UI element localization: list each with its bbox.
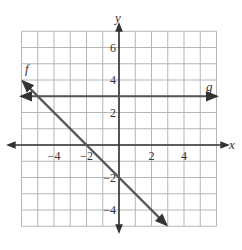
line-g-label: g	[206, 79, 213, 94]
y-tick-label: 2	[110, 106, 116, 120]
x-tick-label: 2	[149, 149, 155, 163]
y-axis-label: y	[113, 10, 121, 25]
y-tick-label: −4	[103, 203, 116, 217]
x-tick-label: 4	[181, 149, 187, 163]
x-tick-label: −4	[48, 149, 61, 163]
x-tick-label: −2	[80, 149, 93, 163]
axes	[8, 24, 228, 232]
line-f	[23, 82, 166, 225]
coordinate-plane: −4−224642−2−4 x y f g	[0, 0, 242, 250]
y-tick-label: 6	[110, 41, 116, 55]
y-tick-label: 4	[110, 73, 116, 87]
x-axis-label: x	[228, 137, 235, 152]
